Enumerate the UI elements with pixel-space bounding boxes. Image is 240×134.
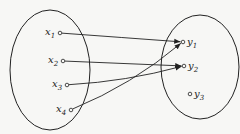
point-y2 bbox=[182, 64, 186, 68]
codomain-set-ellipse bbox=[161, 15, 239, 119]
set-elements: x1x2x3x4y1y2y3 bbox=[45, 26, 205, 117]
diagram-canvas: x1x2x3x4y1y2y3 bbox=[0, 0, 240, 134]
label-x4: x4 bbox=[56, 103, 66, 117]
point-x2 bbox=[61, 59, 65, 63]
point-x4 bbox=[69, 108, 73, 112]
label-y3: y3 bbox=[193, 88, 205, 102]
label-y1: y1 bbox=[186, 36, 197, 50]
label-x1: x1 bbox=[45, 26, 55, 40]
mapping-arrows bbox=[62, 33, 182, 109]
point-x3 bbox=[65, 83, 69, 87]
arrow-x2-to-y2 bbox=[65, 61, 182, 66]
label-y2: y2 bbox=[187, 60, 199, 74]
label-x3: x3 bbox=[52, 78, 63, 92]
arrow-x1-to-y1 bbox=[62, 33, 181, 42]
point-y1 bbox=[181, 40, 185, 44]
set-mapping-diagram: x1x2x3x4y1y2y3 bbox=[0, 0, 240, 134]
point-x1 bbox=[58, 31, 62, 35]
point-y3 bbox=[188, 92, 192, 96]
arrow-x3-to-y2 bbox=[69, 66, 182, 84]
label-x2: x2 bbox=[48, 54, 59, 68]
